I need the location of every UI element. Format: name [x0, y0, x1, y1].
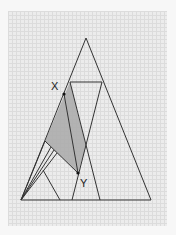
point-x [62, 92, 65, 95]
geometry-diagram: X Y [0, 0, 176, 235]
point-y [76, 171, 79, 174]
shaded-region [45, 82, 86, 173]
fan-line-3 [21, 150, 54, 200]
fan-line-2 [21, 147, 51, 200]
fan-line-4 [21, 153, 57, 200]
small-triangle-side [43, 170, 60, 200]
fan-line-1 [21, 141, 45, 200]
outer-triangle [21, 38, 151, 200]
label-x: X [51, 80, 59, 92]
label-y: Y [80, 177, 88, 189]
